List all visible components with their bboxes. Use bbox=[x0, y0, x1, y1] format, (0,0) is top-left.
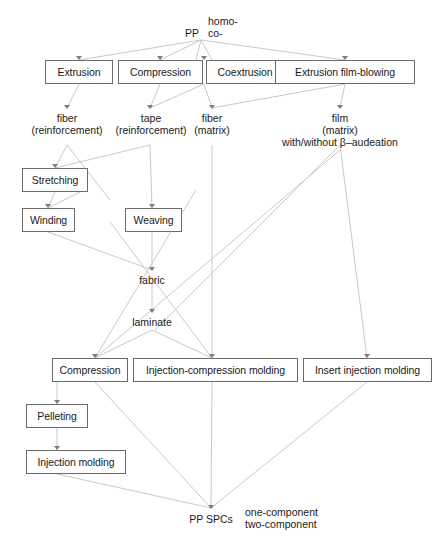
arrow-to-tape-reinforcement bbox=[147, 105, 153, 109]
process-box-weaving[interactable]: Weaving bbox=[125, 208, 182, 232]
arrow-to-fiber-matrix bbox=[209, 105, 215, 109]
material-laminate: laminate bbox=[122, 316, 182, 328]
source-variants: homo- co- bbox=[208, 15, 268, 39]
arrow-to-fiber-reinforcement bbox=[64, 105, 70, 109]
flow-diagram-canvas: PP homo- co- Extrusion Compression Coext… bbox=[0, 0, 443, 545]
process-box-compression-lower[interactable]: Compression bbox=[52, 358, 128, 382]
process-box-compression-top[interactable]: Compression bbox=[118, 60, 203, 84]
material-film-matrix-line2: (matrix) bbox=[255, 124, 425, 136]
source-label: PP bbox=[178, 27, 206, 39]
arrow-to-pp-spcs bbox=[208, 505, 214, 509]
arrow-to-fabric bbox=[149, 267, 155, 271]
process-box-insert-injection-molding[interactable]: Insert injection molding bbox=[303, 358, 432, 382]
material-fabric: fabric bbox=[122, 274, 182, 286]
source-label-text: PP bbox=[185, 27, 199, 39]
material-film-matrix-line1: film bbox=[255, 112, 425, 124]
product-option-two-component: two-component bbox=[245, 518, 355, 530]
arrow-to-film-matrix bbox=[337, 105, 343, 109]
process-box-stretching[interactable]: Stretching bbox=[22, 168, 88, 192]
product-option-one-component: one-component bbox=[245, 506, 355, 518]
material-fiber-matrix-line2: (matrix) bbox=[182, 124, 242, 136]
product-options: one-component two-component bbox=[245, 506, 355, 530]
process-box-injection-compression-molding[interactable]: Injection-compression molding bbox=[133, 358, 298, 382]
material-film-matrix: film (matrix) with/without β–audeation bbox=[255, 112, 425, 148]
material-film-matrix-line3: with/without β–audeation bbox=[255, 136, 425, 148]
process-box-extrusion-film-blowing[interactable]: Extrusion film-blowing bbox=[275, 60, 415, 84]
arrow-to-laminate bbox=[149, 309, 155, 313]
process-box-extrusion[interactable]: Extrusion bbox=[45, 60, 113, 84]
material-fiber-matrix-line1: fiber bbox=[182, 112, 242, 124]
process-box-winding[interactable]: Winding bbox=[22, 208, 75, 232]
process-box-pelleting[interactable]: Pelleting bbox=[26, 404, 88, 428]
source-variant-co: co- bbox=[208, 27, 268, 39]
material-fiber-matrix: fiber (matrix) bbox=[182, 112, 242, 136]
product-label: PP SPCs bbox=[183, 513, 239, 525]
process-box-coextrusion[interactable]: Coextrusion bbox=[206, 60, 284, 84]
source-variant-homo: homo- bbox=[208, 15, 268, 27]
process-box-injection-molding[interactable]: Injection molding bbox=[26, 450, 126, 474]
